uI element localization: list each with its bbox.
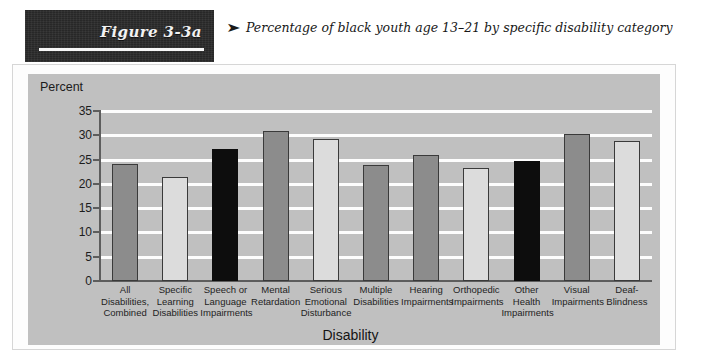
x-axis-tick-label-line: Retardation xyxy=(251,296,301,308)
bar xyxy=(112,164,138,281)
bar-slot xyxy=(463,111,489,281)
x-axis-tick-label-line: Learning xyxy=(150,296,200,308)
bar xyxy=(363,165,389,281)
x-axis-tick-label-line: All xyxy=(100,284,150,296)
x-axis-tick-label-line: Impairments xyxy=(401,296,451,308)
y-axis-tick-mark xyxy=(93,207,99,209)
x-axis-tick-label-line: Serious xyxy=(301,284,351,296)
y-axis-tick-labels: 05101520253035 xyxy=(58,0,92,356)
x-axis-tick-label-line: Hearing xyxy=(401,284,451,296)
x-axis-tick-label-line: Mental xyxy=(251,284,301,296)
x-axis-tick-label-line: Disabilities xyxy=(351,296,401,308)
y-axis-tick-mark xyxy=(93,280,99,282)
x-axis-tick-label-line: Deaf- xyxy=(602,284,652,296)
x-axis-tick-label: OtherHealthImpairments xyxy=(501,284,551,319)
bar-slot xyxy=(162,111,188,281)
y-axis-tick-mark xyxy=(93,110,99,112)
bar-slot xyxy=(363,111,389,281)
x-axis-tick-label: HearingImpairments xyxy=(401,284,451,307)
x-axis-tick-label-line: Speech or xyxy=(200,284,250,296)
bar-slot xyxy=(313,111,339,281)
bar-slot xyxy=(564,111,590,281)
x-axis-tick-label-line: Orthopedic xyxy=(451,284,501,296)
figure-header: Figure 3-3a ➤ Percentage of black youth … xyxy=(0,0,701,64)
x-axis-tick-label-line: Impairments xyxy=(552,296,602,308)
x-axis-tick-label-line: Blindness xyxy=(602,296,652,308)
x-axis-tick-label: MultipleDisabilities xyxy=(351,284,401,307)
y-axis-tick-mark xyxy=(93,134,99,136)
bar xyxy=(413,155,439,281)
y-axis-tick-mark xyxy=(93,256,99,258)
figure-caption: ➤ Percentage of black youth age 13–21 by… xyxy=(228,20,673,35)
arrow-bullet-icon: ➤ xyxy=(226,21,241,34)
x-axis-tick-label-line: Impairments xyxy=(501,307,551,319)
bar xyxy=(313,139,339,281)
x-axis-tick-labels: AllDisabilities,CombinedSpecificLearning… xyxy=(100,284,652,330)
y-axis-tick-label: 30 xyxy=(68,129,92,141)
x-axis-tick-label-line: Specific xyxy=(150,284,200,296)
bar-slot xyxy=(614,111,640,281)
figure-number-badge: Figure 3-3a xyxy=(25,10,214,62)
y-axis-tick-label: 20 xyxy=(68,178,92,190)
x-axis-tick-label: SpecificLearningDisabilities xyxy=(150,284,200,319)
bar xyxy=(212,149,238,281)
x-axis-tick-label-line: Other xyxy=(501,284,551,296)
bar xyxy=(263,131,289,281)
y-axis-tick-label: 15 xyxy=(68,202,92,214)
bar xyxy=(514,161,540,281)
x-axis-tick-label-line: Disabilities xyxy=(150,307,200,319)
bar xyxy=(463,168,489,281)
x-axis-tick-label: AllDisabilities,Combined xyxy=(100,284,150,319)
x-axis-tick-label-line: Language xyxy=(200,296,250,308)
y-axis-tick-mark xyxy=(93,183,99,185)
y-axis-tick-label: 10 xyxy=(68,226,92,238)
y-axis-tick-label: 35 xyxy=(68,105,92,117)
x-axis-tick-label: Speech orLanguageImpairments xyxy=(200,284,250,319)
figure-number-label: Figure 3-3a xyxy=(100,23,202,41)
x-axis-title: Disability xyxy=(0,327,701,343)
y-axis-tick-label: 5 xyxy=(68,251,92,263)
y-axis-tick-label: 25 xyxy=(68,154,92,166)
x-axis-tick-label: OrthopedicImpairments xyxy=(451,284,501,307)
figure-caption-text: Percentage of black youth age 13–21 by s… xyxy=(246,20,673,35)
bar-slot xyxy=(514,111,540,281)
x-axis-tick-label-line: Impairments xyxy=(200,307,250,319)
x-axis-tick-label-line: Emotional xyxy=(301,296,351,308)
x-axis-tick-label-line: Combined xyxy=(100,307,150,319)
x-axis-tick-label-line: Multiple xyxy=(351,284,401,296)
x-axis-tick-label-line: Disabilities, xyxy=(100,296,150,308)
x-axis-tick-label-line: Visual xyxy=(552,284,602,296)
y-axis-tick-mark xyxy=(93,159,99,161)
x-axis-tick-label-line: Disturbance xyxy=(301,307,351,319)
bar xyxy=(614,141,640,281)
x-axis-tick-label: Deaf-Blindness xyxy=(602,284,652,307)
bar-slot xyxy=(212,111,238,281)
x-axis-tick-label-line: Health xyxy=(501,296,551,308)
bar-slot xyxy=(112,111,138,281)
bar xyxy=(162,177,188,281)
x-axis-tick-label: MentalRetardation xyxy=(251,284,301,307)
bar-slot xyxy=(263,111,289,281)
y-axis-tick-mark xyxy=(93,231,99,233)
x-axis-tick-label: VisualImpairments xyxy=(552,284,602,307)
bar-slot xyxy=(413,111,439,281)
bar xyxy=(564,134,590,281)
y-axis-tick-label: 0 xyxy=(68,275,92,287)
x-axis-tick-label: SeriousEmotionalDisturbance xyxy=(301,284,351,319)
x-axis-tick-label-line: Impairments xyxy=(451,296,501,308)
chart-bars xyxy=(100,111,652,281)
